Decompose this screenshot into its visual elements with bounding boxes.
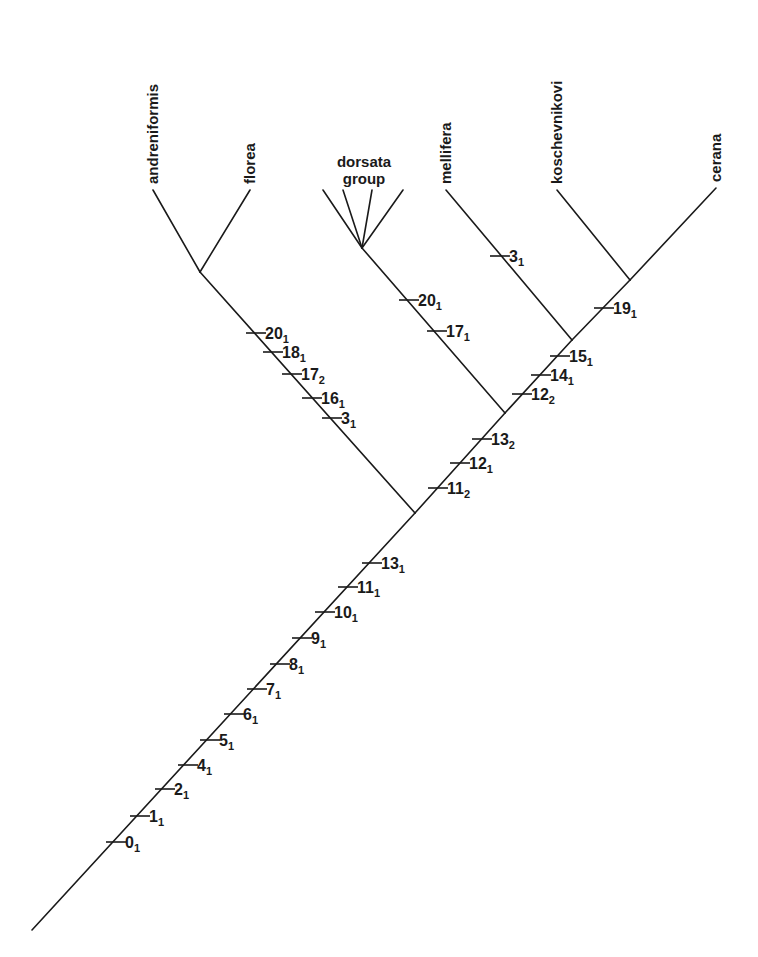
- character-label-cavity_stem: 141: [550, 367, 574, 387]
- taxon-label-andreniformis: andreniformis: [144, 84, 161, 184]
- character-label-kc_stem: 191: [613, 300, 637, 320]
- taxon-label-koschevnikovi: koschevnikovi: [548, 81, 565, 184]
- koschevnikovi-branch: [557, 190, 630, 280]
- taxon-label-florea: florea: [241, 142, 258, 184]
- character-label-trunk: 21: [174, 781, 189, 801]
- character-label-trunk: 01: [125, 834, 140, 854]
- character-label-mellifera_branch: 31: [509, 248, 524, 268]
- character-label-dwarf_stem: 161: [321, 390, 345, 410]
- mellifera-branch: [446, 190, 572, 340]
- character-label-upper_trunk: 112: [447, 480, 470, 500]
- character-label-upper_trunk: 121: [469, 455, 493, 475]
- character-label-cavity_stem: 122: [531, 386, 555, 406]
- andreniformis-branch: [153, 190, 200, 272]
- character-label-dwarf_stem: 181: [282, 344, 306, 364]
- character-label-trunk: 71: [266, 681, 281, 701]
- character-label-trunk: 101: [334, 604, 358, 624]
- character-label-dwarf_stem: 201: [265, 325, 289, 345]
- taxon-label-dorsata-line2: group: [343, 170, 386, 187]
- character-label-dwarf_stem: 172: [301, 366, 325, 386]
- character-label-dorsata_stem: 201: [418, 292, 442, 312]
- character-label-trunk: 51: [219, 732, 234, 752]
- character-label-trunk: 91: [311, 630, 326, 650]
- character-label-trunk: 11: [149, 808, 164, 828]
- character-label-trunk: 131: [381, 555, 405, 575]
- phylogenetic-tree: andreniformisfloreadorsatagroupmellifera…: [0, 0, 758, 957]
- dorsata-group-branch-2: [362, 190, 372, 248]
- character-label-trunk: 81: [289, 656, 304, 676]
- cerana-branch: [630, 188, 716, 280]
- florea-branch: [200, 190, 250, 272]
- character-label-dorsata_stem: 171: [446, 323, 470, 343]
- trunk-branch: [32, 513, 415, 930]
- dwarf-bee-stem: [200, 272, 415, 513]
- character-label-trunk: 61: [243, 706, 258, 726]
- character-label-upper_trunk: 132: [491, 431, 515, 451]
- taxon-label-mellifera: mellifera: [437, 122, 454, 184]
- character-label-cavity_stem: 151: [569, 348, 593, 368]
- taxon-labels: andreniformisfloreadorsatagroupmellifera…: [144, 81, 724, 187]
- dorsata-group-branch-0: [323, 190, 362, 248]
- taxon-label-cerana: cerana: [707, 133, 724, 182]
- taxon-label-dorsata-line1: dorsata: [337, 153, 392, 170]
- dorsata-group-branch-3: [362, 190, 403, 248]
- character-ticks: [106, 256, 614, 842]
- character-label-dwarf_stem: 31: [341, 410, 356, 430]
- character-label-trunk: 111: [357, 579, 380, 599]
- character-label-trunk: 41: [197, 757, 212, 777]
- dorsata-group-branch-1: [343, 190, 362, 248]
